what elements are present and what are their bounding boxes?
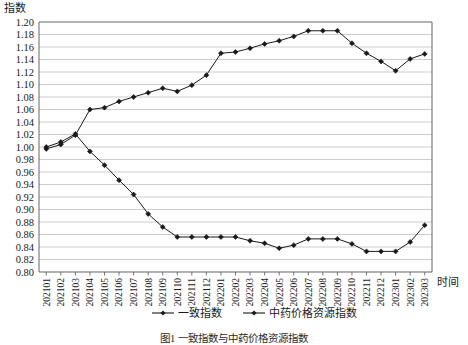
y-tick-label: 0.92 — [16, 192, 34, 203]
data-point-marker — [204, 235, 209, 240]
y-tick-label: 1.20 — [16, 17, 34, 28]
x-tick-label: 202108 — [144, 278, 154, 307]
x-tick-label: 202101 — [42, 278, 52, 307]
x-tick-label: 202212 — [376, 278, 386, 307]
data-point-marker — [262, 41, 267, 46]
y-tick-label: 1.00 — [16, 142, 34, 153]
y-tick-label: 0.98 — [16, 154, 34, 165]
legend-label: 中药价格资源指数 — [269, 306, 357, 319]
x-tick-labels: 2021012021022021032021042021052021062021… — [42, 278, 430, 307]
y-tick-label: 0.94 — [16, 179, 35, 190]
x-tick-label: 202301 — [391, 278, 401, 307]
data-point-marker — [131, 95, 136, 100]
chart-figure: 指数 时间 0.800.820.840.860.880.900.920.940.… — [0, 0, 468, 345]
x-tick-label: 202207 — [304, 278, 314, 307]
x-tick-label: 202203 — [245, 278, 255, 307]
x-tick-marks — [46, 272, 424, 276]
data-point-marker — [117, 99, 122, 104]
x-tick-label: 202205 — [275, 278, 285, 307]
data-point-marker — [320, 236, 325, 241]
y-tick-label: 1.10 — [16, 79, 34, 90]
data-point-marker — [262, 241, 267, 246]
data-point-marker — [277, 38, 282, 43]
legend-label: 一致指数 — [178, 306, 222, 319]
y-tick-label: 1.14 — [16, 54, 35, 65]
data-point-marker — [422, 51, 427, 56]
y-tick-label: 0.80 — [16, 267, 34, 278]
series-line — [46, 31, 424, 149]
x-tick-label: 202208 — [318, 278, 328, 307]
data-point-marker — [233, 235, 238, 240]
y-tick-labels: 0.800.820.840.860.880.900.920.940.960.98… — [16, 17, 35, 278]
y-tick-label: 0.84 — [16, 242, 35, 253]
data-point-marker — [393, 249, 398, 254]
x-tick-label: 202106 — [114, 278, 124, 307]
y-tick-label: 1.16 — [16, 42, 34, 53]
y-tick-label: 1.08 — [16, 92, 34, 103]
data-point-marker — [175, 89, 180, 94]
y-tick-label: 0.88 — [16, 217, 34, 228]
y-tick-label: 0.96 — [16, 167, 34, 178]
x-tick-label: 202107 — [129, 278, 139, 307]
series-markers — [44, 28, 427, 254]
x-tick-label: 202209 — [333, 278, 343, 307]
y-tick-label: 1.12 — [16, 67, 34, 78]
y-tick-label: 1.02 — [16, 129, 34, 140]
x-tick-label: 202105 — [100, 278, 110, 307]
data-point-marker — [248, 238, 253, 243]
data-point-marker — [146, 90, 151, 95]
chart-legend: 一致指数中药价格资源指数 — [152, 306, 357, 319]
x-tick-label: 202112 — [202, 278, 212, 306]
data-point-marker — [87, 107, 92, 112]
x-tick-label: 202110 — [173, 278, 183, 306]
figure-caption: 图1 一致指数与中药价格资源指数 — [0, 333, 468, 345]
x-tick-label: 202211 — [362, 278, 372, 306]
x-tick-label: 202102 — [56, 278, 66, 307]
y-tick-label: 0.86 — [16, 229, 34, 240]
y-tick-label: 0.90 — [16, 204, 34, 215]
data-point-marker — [306, 236, 311, 241]
data-point-marker — [320, 28, 325, 33]
data-point-marker — [335, 236, 340, 241]
x-tick-label: 202201 — [216, 278, 226, 307]
data-point-marker — [248, 46, 253, 51]
x-tick-label: 202103 — [71, 278, 81, 307]
x-tick-label: 202210 — [347, 278, 357, 307]
line-chart-plot: 0.800.820.840.860.880.900.920.940.960.98… — [0, 0, 468, 345]
x-tick-label: 202109 — [158, 278, 168, 307]
x-tick-label: 202302 — [406, 278, 416, 307]
data-point-marker — [233, 50, 238, 55]
legend-marker — [160, 310, 165, 315]
data-point-marker — [379, 249, 384, 254]
data-point-marker — [160, 86, 165, 91]
series-lines — [46, 31, 424, 252]
legend-marker — [251, 310, 256, 315]
data-point-marker — [277, 246, 282, 251]
x-tick-label: 202202 — [231, 278, 241, 307]
data-point-marker — [306, 28, 311, 33]
data-point-marker — [218, 235, 223, 240]
x-tick-label: 202104 — [85, 278, 95, 307]
x-tick-label: 202204 — [260, 278, 270, 307]
y-tick-label: 0.82 — [16, 254, 34, 265]
x-tick-label: 202206 — [289, 278, 299, 307]
x-tick-label: 202111 — [187, 278, 197, 306]
x-tick-label: 202303 — [420, 278, 430, 307]
y-tick-label: 1.04 — [16, 117, 35, 128]
data-point-marker — [364, 249, 369, 254]
y-tick-label: 1.18 — [16, 29, 34, 40]
y-tick-label: 1.06 — [16, 104, 34, 115]
data-point-marker — [189, 235, 194, 240]
data-point-marker — [349, 241, 354, 246]
series-line — [46, 134, 424, 252]
